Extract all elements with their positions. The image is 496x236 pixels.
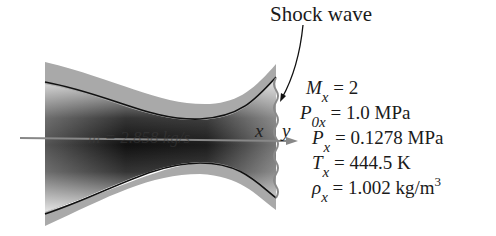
property-temperature: Tx = 444.5 K (312, 151, 443, 176)
property-density: ρx = 1.002 kg/m3 (312, 176, 443, 202)
mass-flow-label: ṁ = 2.858 kg/s (88, 128, 190, 148)
upstream-properties: Mx = 2 P0x = 1.0 MPa Px = 0.1278 MPa Tx … (300, 76, 431, 202)
upstream-state-label: x (255, 120, 263, 142)
property-mach: Mx = 2 (306, 76, 437, 101)
property-pressure: Px = 0.1278 MPa (312, 126, 443, 151)
shock-wave-label: Shock wave (270, 2, 372, 27)
property-stagnation-pressure: P0x = 1.0 MPa (300, 101, 431, 126)
downstream-state-label: y (282, 120, 290, 142)
